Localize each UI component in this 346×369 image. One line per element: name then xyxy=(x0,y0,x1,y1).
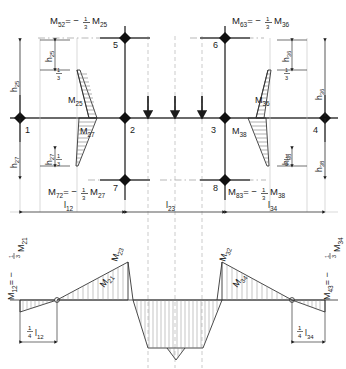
node-label-1: 1 xyxy=(25,125,30,135)
label-m83-equation: M83= − 1 3 M38 xyxy=(228,186,286,201)
node-label-6: 6 xyxy=(213,40,218,50)
bmd-left-end-block xyxy=(20,300,57,312)
third-marker-right-top: 1 3 xyxy=(284,67,290,81)
svg-text:4: 4 xyxy=(28,333,32,339)
bmd-label-m12-frac: 1 3 xyxy=(8,253,21,259)
label-l12: l12 xyxy=(64,200,74,212)
label-m63-equation: M63= − 1 3 M36 xyxy=(232,15,290,30)
svg-text:3: 3 xyxy=(262,195,266,201)
svg-text:1: 1 xyxy=(57,153,60,159)
moment-wedge-25 xyxy=(77,70,97,118)
label-h36: h36 xyxy=(281,50,292,62)
svg-text:1: 1 xyxy=(285,67,288,73)
svg-text:1: 1 xyxy=(324,255,330,258)
bmd-label-m23: M23 xyxy=(109,245,125,263)
construction-lines xyxy=(10,38,338,212)
svg-text:M52= −: M52= − xyxy=(50,15,79,28)
moment-wedge-36 xyxy=(256,70,271,118)
point-loads xyxy=(148,96,202,115)
svg-text:M36: M36 xyxy=(274,15,290,28)
node-label-7: 7 xyxy=(113,183,118,193)
label-quarter-l34: 1 4 l34 xyxy=(297,325,314,340)
bmd-label-m12: M12= − xyxy=(6,272,18,300)
svg-text:M38: M38 xyxy=(270,186,286,199)
svg-text:1: 1 xyxy=(28,325,32,331)
svg-text:1: 1 xyxy=(82,187,86,193)
bmd-right-end-block xyxy=(292,300,325,312)
node-labels: 1 2 3 4 5 6 7 8 xyxy=(25,40,318,193)
svg-text:3: 3 xyxy=(285,75,288,81)
svg-text:3: 3 xyxy=(266,24,270,30)
svg-text:3: 3 xyxy=(285,161,288,167)
bmd-label-m43: M43= − xyxy=(322,272,334,300)
svg-text:M72= −: M72= − xyxy=(48,186,77,199)
label-h25: h25 xyxy=(44,50,55,62)
moment-wedge-38 xyxy=(248,118,269,166)
node-label-3: 3 xyxy=(211,125,216,135)
structural-diagram-svg: 1 2 3 4 5 6 7 8 xyxy=(0,0,346,369)
svg-text:3: 3 xyxy=(57,161,60,167)
label-h27: h27 xyxy=(9,156,20,168)
svg-text:1: 1 xyxy=(266,16,270,22)
svg-text:M83= −: M83= − xyxy=(228,186,257,199)
label-quarter-l12: 1 4 l12 xyxy=(27,325,44,340)
frame-group: 1 2 3 4 5 6 7 8 xyxy=(9,15,338,368)
bmd-label-m43-frac: 1 3 xyxy=(324,253,337,259)
label-h25-outer: h25 xyxy=(9,80,20,92)
bmd-quarter-labels: 1 4 l12 1 4 l34 xyxy=(27,325,314,340)
label-m38: M38 xyxy=(232,126,247,138)
bmd-span-12-hogging xyxy=(57,262,133,300)
label-l23: l23 xyxy=(166,200,176,212)
label-h36-outer: h36 xyxy=(314,88,325,100)
node-label-2: 2 xyxy=(130,125,135,135)
label-l34: l34 xyxy=(268,200,278,212)
bmd-dimension-lines xyxy=(20,300,325,342)
dashed-guides xyxy=(148,36,202,368)
node-label-5: 5 xyxy=(113,40,118,50)
bmd-span-34-hogging xyxy=(217,262,292,300)
bmd-label-m32: M32 xyxy=(217,245,233,263)
svg-text:3: 3 xyxy=(15,255,21,258)
svg-text:l34: l34 xyxy=(305,328,314,340)
bmd-span-23-sagging xyxy=(133,300,222,360)
third-marker-left-top: 1 3 xyxy=(56,67,62,81)
svg-text:1: 1 xyxy=(298,325,302,331)
third-marker-left-bottom: 1 3 xyxy=(56,153,62,167)
storey-axis-lines xyxy=(38,38,266,180)
bmd-label-m21-rhs: M21 xyxy=(16,237,28,252)
svg-text:3: 3 xyxy=(84,24,88,30)
svg-text:3: 3 xyxy=(57,75,60,81)
label-h27-inner: h27 xyxy=(44,153,55,165)
svg-text:1: 1 xyxy=(262,187,266,193)
bmd-label-m21: M21 xyxy=(98,271,116,290)
frac-1-over-3-a: 1 xyxy=(84,16,88,22)
columns xyxy=(20,26,325,200)
svg-text:M27: M27 xyxy=(90,186,106,199)
svg-text:4: 4 xyxy=(298,333,302,339)
svg-text:M63= −: M63= − xyxy=(232,15,261,28)
bmd-label-m34: M34 xyxy=(231,271,249,290)
bmd-label-m34-rhs: M34 xyxy=(332,237,344,252)
node-label-4: 4 xyxy=(313,125,318,135)
svg-text:1: 1 xyxy=(57,67,60,73)
node-label-8: 8 xyxy=(213,183,218,193)
svg-text:1: 1 xyxy=(285,153,288,159)
label-m36: M36 xyxy=(255,95,270,107)
svg-text:l12: l12 xyxy=(35,328,44,340)
figure-root: 1 2 3 4 5 6 7 8 xyxy=(0,0,346,369)
label-m52-equation: M52= − 1 3 M25 xyxy=(50,15,108,30)
svg-text:M25: M25 xyxy=(92,15,108,28)
label-m25: M25 xyxy=(68,95,83,107)
span-labels: l12 l23 l34 xyxy=(64,200,278,212)
moment-labels-frame: M25 M27 M36 M38 xyxy=(68,95,270,138)
svg-text:1: 1 xyxy=(8,255,14,258)
label-h38: h38 xyxy=(314,160,325,172)
svg-text:3: 3 xyxy=(331,255,337,258)
svg-text:3: 3 xyxy=(82,195,86,201)
